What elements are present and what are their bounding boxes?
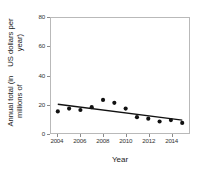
y-axis-tick-label: 20 [39,102,45,108]
data-point [67,106,71,110]
data-point [124,106,128,110]
x-axis-title: Year [50,155,190,164]
chart-figure: Annual total (in millions of US dollars … [0,0,200,178]
data-point [146,117,150,121]
x-axis-tick-label: 2004 [50,138,63,144]
data-point [56,109,60,113]
y-axis-tick-label: 0 [42,131,45,137]
data-point [101,98,105,102]
x-axis-tick-label: 2006 [73,138,86,144]
y-axis-tick-label: 80 [39,14,45,20]
x-axis-tick-label: 2008 [96,138,109,144]
x-axis-tick-label: 2012 [142,138,155,144]
plot-svg [51,18,189,133]
y-axis-tick-label: 60 [39,43,45,49]
data-point [169,118,173,122]
data-points [56,98,185,125]
x-axis-tick-label: 2014 [165,138,178,144]
x-axis: 200420062008201020122014 [50,134,190,152]
y-axis: 020406080 [0,17,50,134]
data-point [90,105,94,109]
trend-line [58,104,182,120]
data-point [78,108,82,112]
y-axis-tick-label: 40 [39,72,45,78]
data-point [158,119,162,123]
trend-line-segment [58,104,182,120]
data-point [135,115,139,119]
data-point [180,121,184,125]
x-axis-tick-label: 2010 [119,138,132,144]
plot-panel [50,17,190,134]
data-point [112,101,116,105]
